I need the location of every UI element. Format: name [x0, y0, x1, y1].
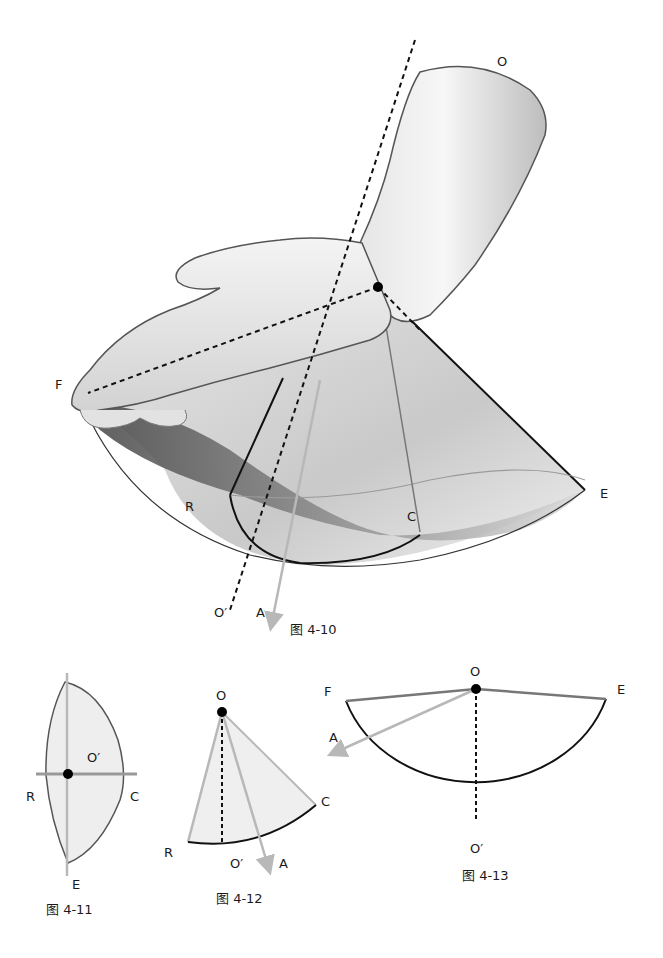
pivot-point: [217, 707, 227, 717]
label-o: O: [497, 54, 507, 69]
label-o: O: [216, 688, 226, 703]
line-of: [346, 689, 476, 701]
label-a: A: [329, 730, 338, 745]
caption-4-13: 图 4-13: [462, 868, 509, 883]
label-f: F: [324, 684, 331, 699]
figure-4-12: O C R O′ A 图 4-12: [164, 688, 330, 906]
label-f: F: [55, 377, 62, 392]
center-point: [63, 769, 73, 779]
figure-4-11: O′ R C E 图 4-11: [26, 673, 139, 917]
label-e: E: [617, 682, 625, 697]
caption-4-11: 图 4-11: [46, 902, 93, 917]
label-e: E: [600, 486, 608, 501]
label-c: C: [407, 509, 416, 524]
label-o-prime: O′: [214, 605, 227, 620]
label-e: E: [72, 877, 80, 892]
diagram-canvas: O F E R C O′ A 图 4-10 O′ R C E 图 4-11 O …: [0, 0, 663, 958]
label-o-prime: O′: [470, 841, 483, 856]
forearm: [360, 66, 546, 321]
label-c: C: [130, 789, 139, 804]
label-o: O: [470, 664, 480, 679]
label-c: C: [321, 794, 330, 809]
label-r: R: [26, 789, 35, 804]
label-r: R: [164, 845, 173, 860]
label-o-prime: O′: [87, 750, 100, 765]
line-oe: [476, 689, 606, 699]
label-o-prime: O′: [230, 856, 243, 871]
label-a: A: [279, 856, 288, 871]
figure-4-13: O F E A O′ 图 4-13: [324, 664, 625, 883]
caption-4-12: 图 4-12: [216, 891, 263, 906]
label-a: A: [256, 605, 265, 620]
pivot-point: [373, 282, 383, 292]
label-r: R: [185, 499, 194, 514]
sector-fill: [188, 712, 316, 844]
pivot-point: [471, 684, 481, 694]
caption-4-10: 图 4-10: [290, 622, 337, 637]
figure-4-10: O F E R C O′ A 图 4-10: [55, 40, 608, 637]
